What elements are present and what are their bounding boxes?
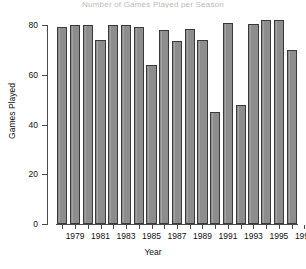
x-tick-1994 bbox=[266, 225, 267, 229]
bar-1985 bbox=[146, 65, 156, 224]
cropped-title: Number of Games Played per Season bbox=[0, 0, 306, 8]
x-tick-label-1991: 1991 bbox=[215, 231, 241, 241]
bar-1989 bbox=[197, 40, 207, 224]
x-tick-label-1985: 1985 bbox=[139, 231, 165, 241]
x-tick-1982 bbox=[113, 225, 114, 229]
y-tick-0 bbox=[42, 224, 48, 225]
y-tick-40 bbox=[42, 125, 48, 126]
x-tick-1984 bbox=[139, 225, 140, 229]
y-tick-label-40: 40 bbox=[0, 121, 38, 129]
x-tick-label-1997: 1997 bbox=[291, 231, 306, 241]
x-tick-label-1993: 1993 bbox=[240, 231, 266, 241]
x-tick-1997 bbox=[304, 225, 305, 229]
bar-1978 bbox=[57, 27, 67, 224]
y-tick-80 bbox=[42, 25, 48, 26]
bar-1992 bbox=[236, 105, 246, 224]
x-tick-label-1981: 1981 bbox=[88, 231, 114, 241]
x-tick-label-1987: 1987 bbox=[164, 231, 190, 241]
x-tick-1992 bbox=[241, 225, 242, 229]
bar-1991 bbox=[223, 23, 233, 224]
x-tick-1987 bbox=[177, 225, 178, 229]
x-axis-title: Year bbox=[0, 247, 306, 257]
x-tick-label-1979: 1979 bbox=[62, 231, 88, 241]
bar-1993 bbox=[248, 24, 258, 224]
bar-1979 bbox=[70, 25, 80, 224]
y-axis-title: Games Played bbox=[7, 51, 17, 171]
bar-1984 bbox=[134, 27, 144, 224]
x-tick-label-1989: 1989 bbox=[189, 231, 215, 241]
x-tick-1980 bbox=[88, 225, 89, 229]
x-tick-1981 bbox=[101, 225, 102, 229]
bar-1981 bbox=[95, 40, 105, 224]
y-tick-label-20: 20 bbox=[0, 170, 38, 178]
y-tick-label-0: 0 bbox=[0, 220, 38, 228]
bar-1980 bbox=[83, 25, 93, 224]
x-tick-1996 bbox=[292, 225, 293, 229]
x-tick-label-1995: 1995 bbox=[266, 231, 292, 241]
x-tick-1991 bbox=[228, 225, 229, 229]
y-tick-label-80: 80 bbox=[0, 21, 38, 29]
x-tick-1988 bbox=[190, 225, 191, 229]
bar-1996 bbox=[287, 50, 297, 224]
x-tick-1979 bbox=[75, 225, 76, 229]
bar-1995 bbox=[274, 20, 284, 224]
y-tick-20 bbox=[42, 174, 48, 175]
bar-1988 bbox=[185, 29, 195, 224]
bar-1994 bbox=[261, 20, 271, 224]
x-tick-1993 bbox=[253, 225, 254, 229]
bar-1986 bbox=[159, 30, 169, 224]
x-tick-1978 bbox=[62, 225, 63, 229]
x-tick-1985 bbox=[152, 225, 153, 229]
x-tick-1989 bbox=[202, 225, 203, 229]
bar-1987 bbox=[172, 41, 182, 224]
y-tick-label-60: 60 bbox=[0, 71, 38, 79]
x-tick-1986 bbox=[164, 225, 165, 229]
bar-1990 bbox=[210, 112, 220, 224]
bar-1983 bbox=[121, 25, 131, 224]
bar-1982 bbox=[108, 25, 118, 224]
x-tick-1990 bbox=[215, 225, 216, 229]
chart-figure: Number of Games Played per Season 020406… bbox=[0, 0, 306, 269]
x-tick-1995 bbox=[279, 225, 280, 229]
x-tick-label-1983: 1983 bbox=[113, 231, 139, 241]
y-tick-60 bbox=[42, 75, 48, 76]
x-tick-1983 bbox=[126, 225, 127, 229]
